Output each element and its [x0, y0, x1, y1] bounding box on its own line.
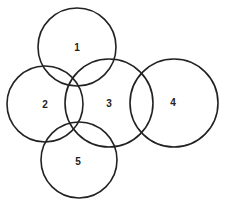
- circle-3-label: 3: [106, 98, 112, 109]
- venn-diagram: 1 2 3 4 5: [0, 0, 229, 204]
- circle-2-label: 2: [42, 99, 48, 110]
- circle-5: 5: [41, 122, 117, 198]
- circle-3: 3: [65, 59, 153, 147]
- circle-1: 1: [38, 8, 116, 86]
- circle-5-label: 5: [75, 156, 81, 167]
- circle-2: 2: [7, 66, 83, 142]
- circle-1-label: 1: [74, 42, 80, 53]
- circle-4: 4: [130, 59, 218, 147]
- circle-4-label: 4: [170, 97, 176, 108]
